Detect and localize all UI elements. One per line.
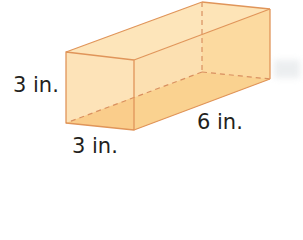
length-label: 6 in. — [197, 112, 243, 133]
height-label: 3 in. — [13, 75, 59, 96]
width-label: 3 in. — [72, 136, 118, 157]
